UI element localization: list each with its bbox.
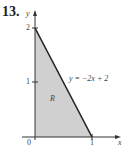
plot-area — [0, 0, 134, 147]
ytick-label-1: 1 — [26, 77, 30, 86]
region-label: R — [50, 94, 55, 103]
y-axis-label: y — [26, 9, 30, 18]
line-equation-label: y = −2x + 2 — [69, 74, 108, 83]
xtick-label-0: 0 — [27, 138, 31, 147]
x-axis-label: x — [118, 138, 122, 147]
xtick-label-1: 1 — [90, 138, 94, 147]
ytick-label-2: 2 — [26, 23, 30, 32]
y-axis-arrow-icon — [33, 10, 37, 16]
